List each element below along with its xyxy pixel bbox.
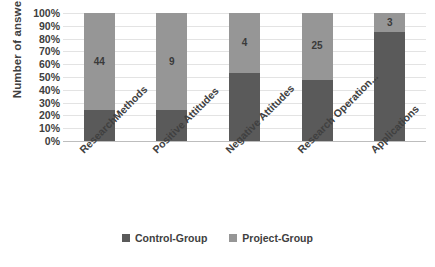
y-tick-label: 50% — [26, 72, 60, 82]
legend-swatch-icon — [229, 234, 237, 242]
chart-legend: Control-GroupProject-Group — [0, 232, 435, 244]
legend-label: Project-Group — [242, 232, 313, 244]
y-tick-label: 80% — [26, 34, 60, 44]
y-tick-label: 60% — [26, 59, 60, 69]
bar-value-label: 3 — [387, 18, 393, 28]
legend-label: Control-Group — [135, 232, 207, 244]
y-axis-tick-labels: 100%90%80%70%60%50%40%30%20%10%0% — [26, 8, 60, 142]
y-tick-label: 0% — [26, 136, 60, 146]
y-tick-label: 30% — [26, 98, 60, 108]
y-tick-label: 90% — [26, 21, 60, 31]
legend-item-project-group[interactable]: Project-Group — [229, 232, 313, 244]
y-tick-label: 70% — [26, 46, 60, 56]
y-tick-label: 40% — [26, 85, 60, 95]
bar-value-label: 9 — [169, 57, 175, 67]
bar-value-label: 4 — [242, 38, 248, 48]
stacked-bar-chart: Number of answers 100%90%80%70%60%50%40%… — [0, 0, 435, 267]
y-tick-label: 100% — [26, 8, 60, 18]
y-tick-label: 20% — [26, 110, 60, 120]
bar-value-label: 44 — [94, 57, 105, 67]
bar-segment-project-group[interactable]: 9 — [156, 13, 187, 110]
y-tick-label: 10% — [26, 123, 60, 133]
legend-item-control-group[interactable]: Control-Group — [122, 232, 207, 244]
bar-value-label: 25 — [312, 41, 323, 51]
bar-segment-project-group[interactable]: 3 — [374, 13, 405, 32]
legend-swatch-icon — [122, 234, 130, 242]
bar-segment-project-group[interactable]: 44 — [84, 13, 115, 110]
bar-segment-project-group[interactable]: 4 — [229, 13, 260, 73]
bar-segment-project-group[interactable]: 25 — [302, 13, 333, 80]
